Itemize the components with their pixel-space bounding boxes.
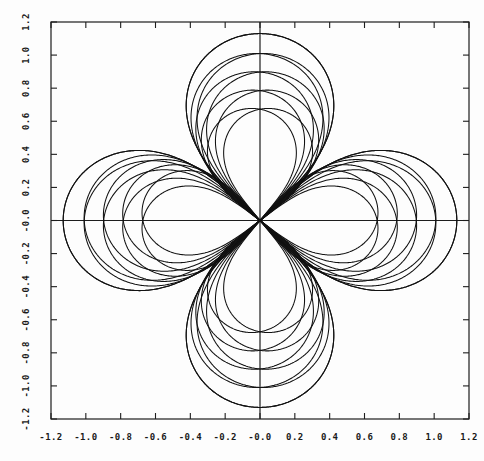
x-tick-label: -0.2: [214, 432, 237, 442]
x-tick-label: -1.0: [74, 432, 97, 442]
y-tick-label: -0.2: [21, 242, 31, 265]
y-tick-label: 0.6: [21, 113, 31, 130]
x-tick-label: 0.4: [321, 432, 339, 442]
x-tick-label: -0.8: [109, 432, 132, 442]
y-tick-label: 0.4: [21, 145, 31, 163]
x-tick-label: -0.4: [179, 432, 202, 442]
x-tick-label: 0.8: [391, 432, 408, 442]
x-tick-label: 0.6: [356, 432, 373, 442]
x-tick-label: 0.2: [286, 432, 303, 442]
y-tick-label: 0.8: [21, 79, 31, 96]
y-tick-label: -0.0: [21, 209, 31, 232]
figure-background: [0, 0, 484, 461]
x-tick-label: 1.0: [425, 432, 442, 442]
y-tick-label: -1.2: [21, 407, 31, 430]
y-tick-label: 0.2: [21, 179, 31, 196]
x-tick-label: -0.0: [248, 432, 271, 442]
plot-figure: -1.2-1.0-0.8-0.6-0.4-0.2-0.00.20.40.60.8…: [0, 0, 484, 461]
y-tick-label: 1.0: [21, 46, 31, 63]
plot-canvas: -1.2-1.0-0.8-0.6-0.4-0.2-0.00.20.40.60.8…: [0, 0, 484, 461]
x-tick-label: -0.6: [144, 432, 167, 442]
y-tick-label: -1.0: [21, 374, 31, 397]
y-tick-label: 1.2: [21, 13, 31, 30]
x-tick-label: 1.2: [460, 432, 477, 442]
y-tick-label: -0.6: [21, 308, 31, 331]
y-tick-label: -0.8: [21, 341, 31, 364]
x-tick-label: -1.2: [39, 432, 62, 442]
y-tick-label: -0.4: [21, 275, 31, 298]
